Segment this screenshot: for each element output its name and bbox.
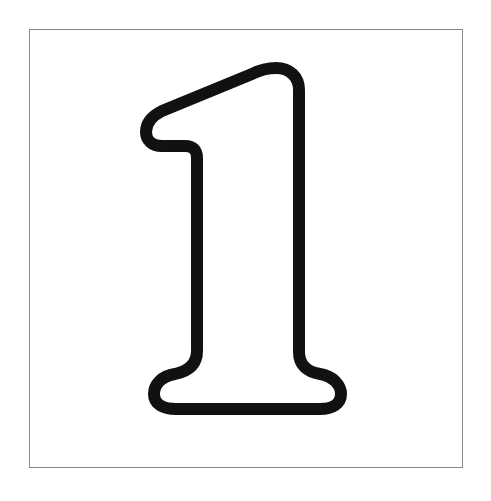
image-canvas: [0, 0, 491, 501]
digit-one-outline-path: [146, 68, 341, 409]
digit-one-figure: [0, 0, 491, 501]
